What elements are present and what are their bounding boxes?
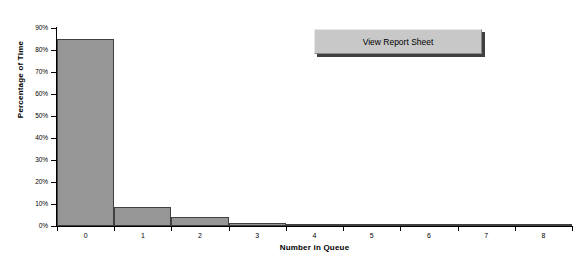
plot-area (57, 28, 572, 226)
x-axis-tick (57, 226, 58, 231)
y-axis-tick-label: 0% (14, 222, 48, 229)
view-report-sheet-button-label: View Report Sheet (363, 37, 434, 47)
y-axis-tick-label: 40% (14, 134, 48, 141)
bar (458, 224, 515, 226)
y-axis-tick-label: 70% (14, 68, 48, 75)
x-axis-line (56, 226, 572, 227)
y-axis-tick-label: 90% (14, 24, 48, 31)
y-axis-tick-label: 80% (14, 46, 48, 53)
y-axis-title: Percentage of Time (16, 20, 25, 140)
bar (400, 224, 457, 226)
y-axis-tick-label: 50% (14, 112, 48, 119)
x-axis-tick (114, 226, 115, 231)
view-report-sheet-button[interactable]: View Report Sheet (314, 29, 482, 54)
x-axis-tick (286, 226, 287, 231)
x-axis-tick-label: 0 (66, 232, 106, 239)
bar (171, 217, 228, 226)
bar (286, 224, 343, 226)
y-axis-tick-label: 60% (14, 90, 48, 97)
x-axis-tick-label: 2 (180, 232, 220, 239)
x-axis-tick-label: 7 (466, 232, 506, 239)
x-axis-tick (171, 226, 172, 231)
y-axis-tick-label: 20% (14, 178, 48, 185)
x-axis-tick (229, 226, 230, 231)
bar (515, 224, 572, 226)
x-axis-tick-label: 4 (295, 232, 335, 239)
x-axis-tick (343, 226, 344, 231)
x-axis-title: Number in Queue (57, 243, 572, 252)
x-axis-tick (458, 226, 459, 231)
bar (343, 224, 400, 226)
x-axis-tick-label: 8 (523, 232, 563, 239)
x-axis-tick (400, 226, 401, 231)
x-axis-tick-label: 3 (237, 232, 277, 239)
bar (114, 207, 171, 226)
y-axis-tick-label: 30% (14, 156, 48, 163)
x-axis-tick-label: 5 (352, 232, 392, 239)
x-axis-tick (572, 226, 573, 231)
x-axis-tick-label: 6 (409, 232, 449, 239)
bar (57, 39, 114, 226)
x-axis-tick (515, 226, 516, 231)
bar (229, 223, 286, 226)
queue-histogram-chart: Percentage of Time Number in Queue 0%10%… (0, 0, 582, 265)
y-axis-tick-label: 10% (14, 200, 48, 207)
x-axis-tick-label: 1 (123, 232, 163, 239)
